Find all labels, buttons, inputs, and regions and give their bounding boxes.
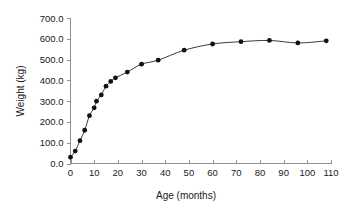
x-tick-label: 80 — [255, 167, 266, 178]
y-tick-label: 300.0 — [40, 96, 64, 107]
data-point — [210, 42, 215, 47]
x-tick-label: 20 — [113, 167, 124, 178]
y-tick-label: 0.0 — [50, 158, 63, 169]
x-tick-label: 90 — [278, 167, 289, 178]
data-point — [73, 149, 78, 154]
data-point — [108, 79, 113, 84]
x-tick-label: 110 — [323, 167, 338, 178]
x-tick-label: 50 — [184, 167, 195, 178]
x-axis-tick-labels: 0102030405060708090100110 — [68, 167, 339, 178]
data-point — [92, 105, 97, 110]
data-point — [139, 62, 144, 67]
x-tick-label: 30 — [136, 167, 147, 178]
data-point — [239, 39, 244, 44]
data-point — [156, 58, 161, 63]
x-tick-label: 100 — [299, 167, 315, 178]
x-axis-tick-marks — [72, 160, 332, 164]
chart-canvas: 0.0100.0200.0300.0400.0500.0600.0700.0 0… — [0, 0, 345, 212]
y-tick-label: 600.0 — [40, 33, 64, 44]
data-point — [78, 138, 83, 143]
y-axis-title: Weight (kg) — [15, 66, 26, 117]
data-point — [125, 70, 130, 75]
x-tick-label: 60 — [207, 167, 218, 178]
data-point — [113, 75, 118, 80]
weight-series-line — [71, 40, 327, 157]
y-tick-label: 700.0 — [40, 13, 64, 24]
x-tick-label: 70 — [231, 167, 242, 178]
data-point — [267, 38, 272, 43]
y-axis-tick-labels: 0.0100.0200.0300.0400.0500.0600.0700.0 — [40, 13, 64, 170]
y-tick-label: 500.0 — [40, 54, 64, 65]
y-axis-tick-marks — [67, 19, 71, 165]
x-tick-label: 0 — [68, 167, 73, 178]
data-point — [82, 128, 87, 133]
y-tick-label: 200.0 — [40, 116, 64, 127]
x-tick-label: 40 — [160, 167, 171, 178]
data-point — [104, 84, 109, 89]
data-point — [94, 99, 99, 104]
data-point — [182, 48, 187, 53]
data-point — [87, 113, 92, 118]
data-point — [68, 155, 73, 160]
growth-curve-figure: 0.0100.0200.0300.0400.0500.0600.0700.0 0… — [0, 0, 345, 212]
data-point — [99, 93, 104, 98]
y-tick-label: 100.0 — [40, 137, 64, 148]
x-tick-label: 10 — [89, 167, 100, 178]
x-axis-title: Age (months) — [156, 190, 216, 201]
data-point — [324, 38, 329, 43]
weight-series-markers — [68, 38, 329, 160]
y-tick-label: 400.0 — [40, 75, 64, 86]
data-point — [295, 41, 300, 46]
